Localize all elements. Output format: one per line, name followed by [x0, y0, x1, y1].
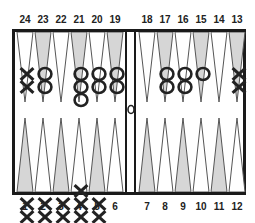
point-24[interactable] — [16, 32, 34, 112]
backgammon-board — [12, 29, 246, 195]
point-label-12: 12 — [228, 201, 246, 213]
point-label-13: 13 — [228, 14, 246, 26]
point-14[interactable] — [210, 32, 228, 112]
point-label-16: 16 — [174, 14, 192, 26]
point-15[interactable] — [192, 32, 210, 112]
point-label-24: 24 — [16, 14, 34, 26]
checker-o-icon[interactable] — [72, 47, 86, 60]
point-label-23: 23 — [34, 14, 52, 26]
checker-x-icon[interactable] — [18, 34, 32, 47]
point-19[interactable] — [106, 32, 124, 112]
checker-x-icon[interactable] — [230, 47, 244, 60]
point-1[interactable] — [16, 112, 34, 192]
checker-o-icon[interactable] — [72, 60, 86, 73]
checker-x-icon[interactable] — [90, 164, 104, 177]
point-12[interactable] — [228, 112, 246, 192]
point-9[interactable] — [174, 112, 192, 192]
checker-x-icon[interactable] — [72, 151, 86, 164]
point-3[interactable] — [52, 112, 70, 192]
checker-o-icon[interactable] — [158, 47, 172, 60]
triangle-point-icon — [138, 112, 156, 192]
point-label-21: 21 — [70, 14, 88, 26]
triangle-point-icon — [156, 112, 174, 192]
point-label-17: 17 — [156, 14, 174, 26]
bar-checker-o-icon[interactable] — [127, 104, 135, 115]
triangle-point-icon — [210, 112, 228, 192]
point-18[interactable] — [138, 32, 156, 112]
point-2[interactable] — [34, 112, 52, 192]
point-label-9: 9 — [174, 201, 192, 213]
board-right-half — [138, 32, 246, 192]
checker-x-icon[interactable] — [18, 164, 32, 177]
point-10[interactable] — [192, 112, 210, 192]
checker-o-icon[interactable] — [72, 34, 86, 47]
checker-o-icon[interactable] — [108, 47, 122, 60]
point-20[interactable] — [88, 32, 106, 112]
checker-o-icon[interactable] — [36, 47, 50, 60]
point-label-19: 19 — [106, 14, 124, 26]
checker-o-icon[interactable] — [158, 34, 172, 47]
point-17[interactable] — [156, 32, 174, 112]
point-label-15: 15 — [192, 14, 210, 26]
point-11[interactable] — [210, 112, 228, 192]
triangle-point-icon — [138, 32, 156, 112]
checker-x-icon[interactable] — [36, 164, 50, 177]
checker-x-icon[interactable] — [18, 47, 32, 60]
triangle-point-icon — [192, 112, 210, 192]
checker-o-icon[interactable] — [108, 34, 122, 47]
point-6[interactable] — [106, 112, 124, 192]
point-label-22: 22 — [52, 14, 70, 26]
point-22[interactable] — [52, 32, 70, 112]
point-label-11: 11 — [210, 201, 228, 213]
checker-o-icon[interactable] — [176, 34, 190, 47]
point-7[interactable] — [138, 112, 156, 192]
checker-x-icon[interactable] — [230, 34, 244, 47]
triangle-point-icon — [228, 112, 246, 192]
checker-o-icon[interactable] — [90, 47, 104, 60]
point-label-18: 18 — [138, 14, 156, 26]
point-4[interactable] — [70, 112, 88, 192]
board-left-half — [16, 32, 124, 192]
checker-o-icon[interactable] — [194, 34, 208, 47]
point-21[interactable] — [70, 32, 88, 112]
checker-o-icon[interactable] — [36, 34, 50, 47]
point-label-20: 20 — [88, 14, 106, 26]
point-23[interactable] — [34, 32, 52, 112]
triangle-point-icon — [52, 32, 70, 112]
point-8[interactable] — [156, 112, 174, 192]
checker-x-icon[interactable] — [54, 164, 68, 177]
checker-o-icon[interactable] — [90, 34, 104, 47]
board-bar[interactable] — [125, 32, 136, 192]
triangle-point-icon — [106, 112, 124, 192]
point-label-14: 14 — [210, 14, 228, 26]
point-label-6: 6 — [106, 201, 124, 213]
triangle-point-icon — [210, 32, 228, 112]
point-label-7: 7 — [138, 201, 156, 213]
point-13[interactable] — [228, 32, 246, 112]
point-label-10: 10 — [192, 201, 210, 213]
triangle-point-icon — [174, 112, 192, 192]
point-label-8: 8 — [156, 201, 174, 213]
point-16[interactable] — [174, 32, 192, 112]
checker-o-icon[interactable] — [176, 47, 190, 60]
point-5[interactable] — [88, 112, 106, 192]
